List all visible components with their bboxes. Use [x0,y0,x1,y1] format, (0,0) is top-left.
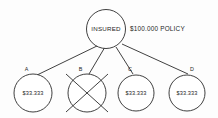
edge-group [35,44,188,76]
beneficiary-c-amount: $33.333 [126,90,147,96]
beneficiary-c-letter: C [128,66,132,72]
node-beneficiary-a: $33.333 A [14,66,52,113]
diagram-canvas: INSURED $100.000 POLICY $33.333 A B $33.… [0,0,218,118]
edge-to-b [89,47,105,74]
beneficiary-d-letter: D [190,66,194,72]
beneficiary-a-letter: A [25,66,29,72]
beneficiary-b-letter: B [79,66,83,72]
policy-annotation: $100.000 POLICY [130,25,185,32]
insurance-beneficiary-diagram: INSURED $100.000 POLICY $33.333 A B $33.… [0,0,218,118]
node-beneficiary-d: $33.333 D [169,66,205,111]
edge-to-a [35,45,99,76]
node-beneficiary-b: B [66,66,108,113]
node-insured: INSURED [87,10,126,49]
node-beneficiary-c: $33.333 C [118,66,154,111]
beneficiary-a-amount: $33.333 [23,90,44,96]
insured-label: INSURED [91,25,121,32]
beneficiary-d-amount: $33.333 [177,90,198,96]
